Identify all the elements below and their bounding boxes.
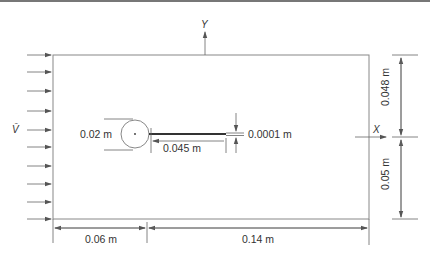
plate-thickness-label: 0.0001 m [248,128,292,140]
inflow-arrows [27,55,51,219]
cylinder-center [134,133,136,135]
cylinder-diameter-label: 0.02 m [80,128,112,140]
downstream-length-label: 0.14 m [242,233,274,245]
bottom-height-label: 0.05 m [379,158,391,190]
top-height-label: 0.048 m [379,68,391,106]
plate-length-label: 0.045 m [163,142,201,154]
y-axis-label: Y [201,19,209,30]
velocity-label: V̄ [12,123,20,135]
diagram-canvas: V̄ Y X 0.02 m 0.045 m 0.0001 m 0.048 m 0… [0,0,430,256]
x-axis-label: X [372,124,380,135]
upstream-length-label: 0.06 m [85,233,117,245]
